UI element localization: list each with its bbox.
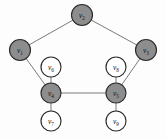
graph-node-v7[interactable]: v7 bbox=[41, 111, 61, 131]
graph-node-v4[interactable]: v4 bbox=[41, 83, 61, 103]
node-circle-v8[interactable] bbox=[106, 57, 126, 77]
graph-node-v3[interactable]: v3 bbox=[136, 40, 157, 61]
graph-canvas: v1v2v3v4v5v6v7v8v9 bbox=[0, 0, 166, 139]
graph-figure: v1v2v3v4v5v6v7v8v9 bbox=[0, 0, 166, 139]
node-circle-v1[interactable] bbox=[10, 40, 31, 61]
graph-node-v6[interactable]: v6 bbox=[41, 57, 61, 77]
node-circle-v2[interactable] bbox=[72, 5, 93, 26]
node-circle-v7[interactable] bbox=[41, 111, 61, 131]
graph-node-v8[interactable]: v8 bbox=[106, 57, 126, 77]
graph-node-v1[interactable]: v1 bbox=[10, 40, 31, 61]
graph-node-v5[interactable]: v5 bbox=[106, 83, 126, 103]
graph-node-v9[interactable]: v9 bbox=[106, 111, 126, 131]
node-circle-v5[interactable] bbox=[106, 83, 126, 103]
graph-node-v2[interactable]: v2 bbox=[72, 5, 93, 26]
nodes-layer: v1v2v3v4v5v6v7v8v9 bbox=[10, 5, 157, 132]
edges-layer bbox=[20, 15, 146, 121]
node-circle-v6[interactable] bbox=[41, 57, 61, 77]
node-circle-v4[interactable] bbox=[41, 83, 61, 103]
node-circle-v9[interactable] bbox=[106, 111, 126, 131]
node-circle-v3[interactable] bbox=[136, 40, 157, 61]
